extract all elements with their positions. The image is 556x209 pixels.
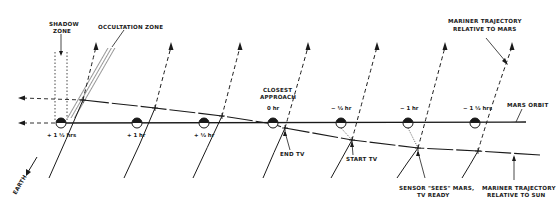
closest-approach-label: CLOSEST <box>263 87 292 93</box>
mars-orbit-line <box>61 122 526 123</box>
occultation-zone-label: OCCULTATION ZONE <box>98 24 163 30</box>
earth-direction-indicator: EARTH <box>12 157 37 196</box>
time-label: 0 hr <box>267 105 279 111</box>
time-label: + ½ hr <box>194 132 215 138</box>
mars-icon <box>336 118 346 128</box>
sensor-sees-mars-label: TV READY <box>417 192 450 198</box>
mariner-mars-label: RELATIVE TO MARS <box>453 26 517 32</box>
trajectories-relative-to-mars <box>49 42 515 178</box>
mars-icon <box>132 118 142 128</box>
closest-approach-label: APPROACH <box>260 94 296 100</box>
mars-icon <box>56 118 66 128</box>
occultation-zone <box>66 30 124 118</box>
mars-icon <box>268 118 278 128</box>
shadow-zone-label: SHADOW <box>49 21 79 27</box>
arrow-icon <box>26 169 31 176</box>
end-tv-label: END TV <box>280 151 305 157</box>
mariner-mars-label: MARINER TRAJECTORY <box>448 18 522 25</box>
mars-orbit-label: MARS ORBIT <box>507 102 548 108</box>
time-label: + 1 ½ hrs <box>47 132 76 138</box>
time-label: − 1 hr <box>400 105 419 111</box>
mariner-sun-label: RELATIVE TO SUN <box>487 192 545 198</box>
time-label: − ½ hr <box>331 105 352 111</box>
shadow-zone-label: ZONE <box>53 28 71 34</box>
mars-icon <box>403 118 413 128</box>
earth-label: EARTH <box>12 174 28 196</box>
time-label: − 1 ½ hrs <box>463 105 492 111</box>
shadow-zone <box>55 34 67 120</box>
mariner-encounter-diagram: + 1 ½ hrs + 1 hr + ½ hr 0 hr − ½ hr − 1 … <box>0 0 556 209</box>
mariner-sun-label: MARINER TRAJECTORY <box>482 185 556 192</box>
sensor-sees-mars-label: SENSOR "SEES" MARS, <box>399 185 474 191</box>
mars-icon <box>470 118 480 128</box>
time-label: + 1 hr <box>127 132 146 138</box>
start-tv-label: START TV <box>346 156 378 162</box>
mars-icon <box>199 118 209 128</box>
